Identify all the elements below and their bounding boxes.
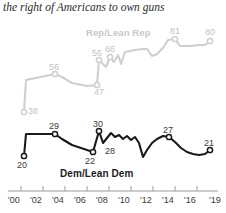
x-axis [8, 186, 218, 191]
dem-value-label-2010: 28 [105, 146, 115, 156]
gun-rights-party-trend-chart: the right of Americans to own guns [0, 0, 226, 213]
rep-value-label-2017: 81 [170, 26, 180, 36]
dem-value-label-2008: 22 [85, 156, 95, 166]
dem-marker-2009 [96, 128, 101, 133]
rep-value-label-2008: 47 [94, 87, 104, 97]
dem-value-label-2009: 30 [93, 119, 103, 129]
plot-area: Rep/Lean Rep Dem/Lean Dem 38 56 47 56 66… [0, 0, 226, 213]
rep-value-label-2010: 66 [105, 44, 115, 54]
x-axis-label-2002: '02 [30, 195, 42, 205]
x-axis-label-2010: '10 [118, 195, 130, 205]
x-axis-label-2016: '16 [184, 195, 196, 205]
x-axis-label-2008: '08 [96, 195, 108, 205]
rep-value-label-2000: 38 [28, 106, 38, 116]
rep-marker-2010 [107, 54, 112, 59]
rep-marker-2009 [96, 57, 101, 62]
x-axis-label-2019: '19 [209, 195, 221, 205]
rep-value-label-2019: 80 [205, 27, 215, 37]
dem-series-group [21, 128, 212, 158]
rep-series-legend-label: Rep/Lean Rep [86, 27, 151, 38]
dem-marker-2016 [166, 134, 171, 139]
rep-marker-2019 [207, 38, 212, 43]
dem-value-label-2016: 27 [163, 125, 173, 135]
rep-value-label-2009: 56 [92, 48, 102, 58]
rep-marker-2017 [172, 36, 177, 41]
x-axis-label-2000: '00 [8, 195, 20, 205]
x-axis-label-2014: '14 [162, 195, 174, 205]
rep-marker-2000 [21, 109, 26, 114]
rep-value-label-2004: 56 [49, 62, 59, 72]
rep-series-group [21, 36, 212, 114]
x-axis-label-2006: '06 [74, 195, 86, 205]
rep-marker-2004 [52, 71, 57, 76]
dem-series-legend-label: Dem/Lean Dem [60, 168, 133, 179]
dem-value-label-2004: 29 [49, 121, 59, 131]
x-axis-label-2004: '04 [52, 195, 64, 205]
rep-line [24, 39, 210, 112]
dem-value-label-2000: 20 [17, 160, 27, 170]
dem-marker-2000 [21, 153, 26, 158]
dem-value-label-2019: 21 [204, 138, 214, 148]
x-axis-label-2012: '12 [140, 195, 152, 205]
dem-marker-2004 [52, 131, 57, 136]
dem-marker-2008 [90, 149, 95, 154]
dem-marker-2019 [207, 147, 212, 152]
